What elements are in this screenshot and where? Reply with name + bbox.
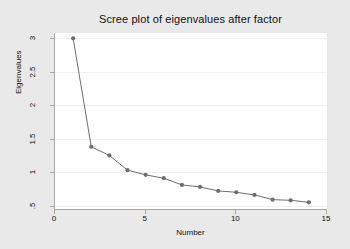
- data-point-11: [252, 193, 256, 197]
- data-point-9: [216, 189, 220, 193]
- data-point-3: [107, 153, 111, 157]
- data-point-7: [180, 183, 184, 187]
- data-point-2: [89, 145, 93, 149]
- y-tick-label-2: 2: [27, 95, 39, 115]
- x-tick-label-15: 15: [315, 214, 337, 223]
- y-tick-label-2.5: 2.5: [27, 62, 39, 82]
- x-tick-label-0: 0: [43, 214, 65, 223]
- x-axis-label: Number: [54, 228, 327, 237]
- data-point-6: [162, 176, 166, 180]
- plot-area: [54, 33, 327, 210]
- y-tick-label-1.5: 1.5: [27, 129, 39, 149]
- data-point-14: [307, 200, 311, 204]
- data-point-1: [71, 36, 75, 40]
- x-tick-label-5: 5: [134, 214, 156, 223]
- y-tick-label-1: 1: [27, 162, 39, 182]
- chart-title: Scree plot of eigenvalues after factor: [54, 13, 327, 25]
- x-tick-mark-5: [145, 210, 146, 214]
- plot-inner: [55, 33, 327, 209]
- data-point-12: [271, 198, 275, 202]
- series-markers: [71, 36, 311, 204]
- x-tick-mark-10: [235, 210, 236, 214]
- eigenvalue-series: [55, 33, 327, 209]
- x-tick-label-10: 10: [224, 214, 246, 223]
- data-point-5: [144, 173, 148, 177]
- data-point-8: [198, 185, 202, 189]
- y-tick-label-.5: .5: [27, 196, 39, 216]
- x-tick-mark-15: [326, 210, 327, 214]
- series-line: [73, 38, 309, 202]
- x-tick-mark-0: [54, 210, 55, 214]
- graph-region: Scree plot of eigenvalues after factor E…: [5, 4, 345, 242]
- data-point-10: [234, 190, 238, 194]
- data-point-4: [125, 168, 129, 172]
- data-point-13: [289, 198, 293, 202]
- y-tick-label-3: 3: [27, 28, 39, 48]
- scree-plot-screenshot: Scree plot of eigenvalues after factor E…: [0, 0, 350, 249]
- y-axis-label: Eigenvalues: [14, 50, 23, 94]
